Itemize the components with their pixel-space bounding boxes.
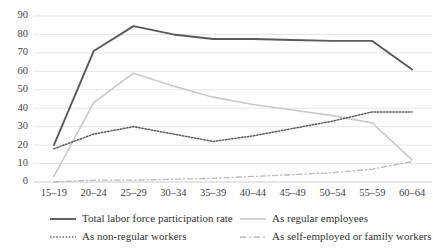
chart-canvas: 9080706050403020100 15–1920–2425–2930–34… (0, 0, 433, 250)
y-tick-label: 50 (18, 83, 29, 94)
series-layer (54, 26, 412, 182)
y-tick-label: 0 (23, 175, 28, 186)
y-axis-tick-labels: 9080706050403020100 (18, 9, 29, 186)
series-line-1 (54, 73, 412, 176)
x-tick-label: 20–24 (81, 187, 108, 198)
x-tick-label: 60–64 (399, 187, 426, 198)
series-line-3 (54, 162, 412, 182)
x-tick-label: 15–19 (41, 187, 67, 198)
legend-item-label[interactable]: Total labor force participation rate (82, 212, 233, 224)
x-tick-label: 25–29 (120, 187, 146, 198)
y-tick-label: 90 (18, 9, 29, 20)
x-tick-label: 35–39 (200, 187, 226, 198)
y-tick-label: 60 (18, 65, 29, 76)
line-chart: 9080706050403020100 15–1920–2425–2930–34… (0, 0, 433, 250)
x-tick-label: 45–49 (280, 187, 306, 198)
x-axis-tick-labels: 15–1920–2425–2930–3435–3940–4445–4950–54… (41, 187, 426, 198)
y-tick-label: 70 (18, 46, 29, 57)
chart-legend: Total labor force participation rateAs r… (50, 212, 431, 242)
x-tick-label: 55–59 (359, 187, 385, 198)
y-tick-label: 20 (18, 139, 29, 150)
legend-item-label[interactable]: As self-employed or family workers (272, 230, 431, 242)
y-tick-label: 80 (18, 28, 29, 39)
x-tick-label: 30–34 (160, 187, 187, 198)
y-tick-label: 30 (18, 120, 29, 131)
y-tick-label: 10 (18, 157, 29, 168)
legend-item-label[interactable]: As regular employees (272, 212, 368, 224)
x-tick-label: 50–54 (319, 187, 346, 198)
series-line-0 (54, 26, 412, 145)
x-tick-label: 40–44 (240, 187, 267, 198)
series-line-2 (54, 112, 412, 149)
y-tick-label: 40 (18, 102, 29, 113)
legend-item-label[interactable]: As non-regular workers (82, 230, 186, 242)
